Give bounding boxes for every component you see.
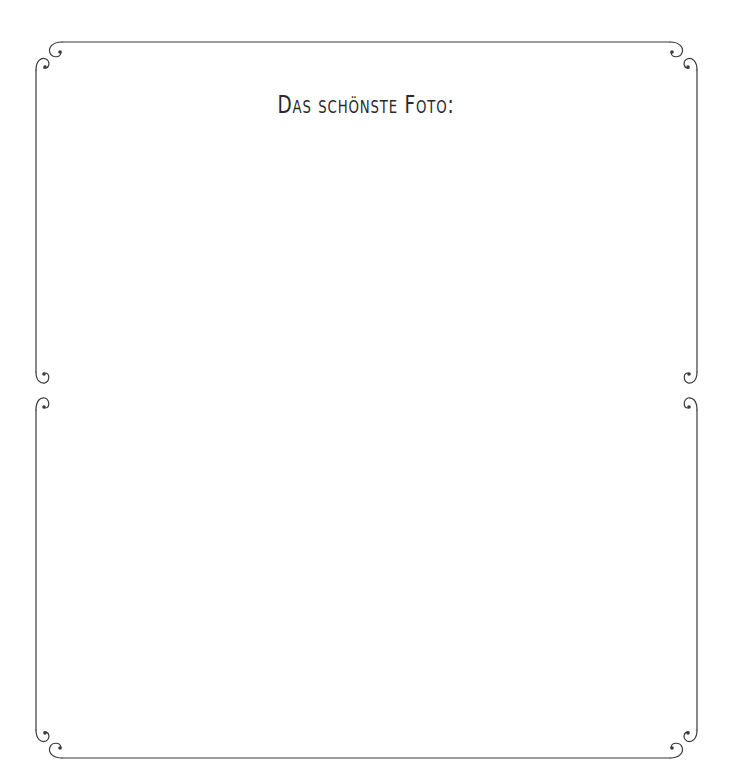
swirl-corner-top-left-icon [36,42,62,70]
swirl-corner-bottom-right-icon [670,730,697,758]
scrapbook-page: Das schönste Foto: [0,0,732,772]
swirl-middle-right-icon [684,372,697,410]
swirl-corner-bottom-left-icon [36,730,62,758]
bottom-photo-frame [37,412,696,730]
page-title: Das schönste Foto: [66,90,666,120]
swirl-corner-top-right-icon [670,42,697,70]
swirl-middle-left-icon [36,372,49,410]
top-photo-frame [37,130,696,370]
